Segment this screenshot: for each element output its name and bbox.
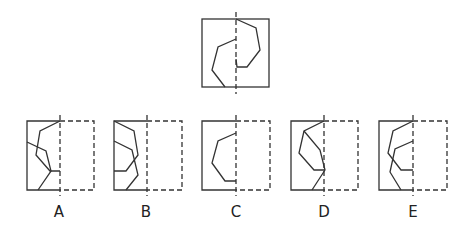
option-a-label[interactable]: A: [54, 203, 64, 221]
option-e-figure[interactable]: [379, 115, 447, 196]
option-d-label[interactable]: D: [318, 203, 330, 221]
question-figure: [202, 12, 269, 94]
option-c-label[interactable]: C: [231, 203, 241, 221]
option-b-figure[interactable]: [114, 115, 182, 196]
option-a-figure[interactable]: [27, 115, 94, 196]
option-b-label[interactable]: B: [141, 203, 151, 221]
puzzle-diagram: [0, 0, 469, 234]
option-d-figure[interactable]: [291, 115, 358, 196]
option-c-figure[interactable]: [202, 115, 270, 196]
option-e-label[interactable]: E: [408, 203, 417, 221]
